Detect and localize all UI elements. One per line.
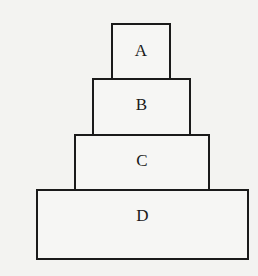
- block-c-label: C: [76, 152, 208, 169]
- block-b-label: B: [94, 96, 189, 113]
- block-b: B: [92, 78, 191, 136]
- pyramid-diagram: A B C D: [0, 0, 258, 276]
- block-a: A: [111, 23, 171, 80]
- block-c: C: [74, 134, 210, 191]
- block-d-label: D: [38, 207, 247, 224]
- block-a-label: A: [113, 42, 169, 59]
- block-d: D: [36, 189, 249, 260]
